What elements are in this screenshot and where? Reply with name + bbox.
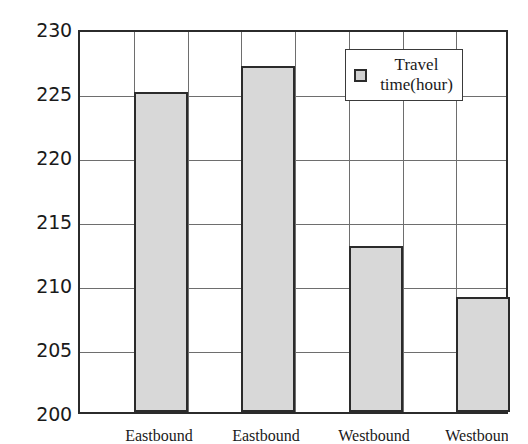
plot-area: Travel time(hour) xyxy=(78,30,508,414)
y-axis-tick-label: 210 xyxy=(10,275,72,297)
y-axis-tick-label: 215 xyxy=(10,211,72,233)
legend-label-line1: Travel xyxy=(377,55,456,75)
y-axis-tick-label: 205 xyxy=(10,339,72,361)
x-axis-tick-label: Eastbound xyxy=(125,427,193,444)
bar xyxy=(241,66,295,412)
y-axis-tick-label: 220 xyxy=(10,147,72,169)
bar xyxy=(349,246,403,412)
y-axis-tick-label: 225 xyxy=(10,83,72,105)
bar xyxy=(456,297,510,412)
x-axis-tick-label: Eastbound xyxy=(232,427,300,444)
x-axis-tick-label: Westbound xyxy=(338,427,410,444)
legend-swatch-icon xyxy=(354,69,367,82)
bar-chart-figure: 200205210215220225230 Travel time(hour) … xyxy=(0,0,528,444)
bar xyxy=(134,92,188,412)
y-axis-tick-label: 200 xyxy=(10,403,72,425)
x-axis-tick-label: Westbound xyxy=(445,427,508,444)
x-axis: EastboundEastboundWestboundWestbound xyxy=(78,427,508,444)
y-axis: 200205210215220225230 xyxy=(6,0,72,444)
chart-legend: Travel time(hour) xyxy=(345,49,463,101)
legend-label-line2: time(hour) xyxy=(377,75,456,95)
y-axis-tick-label: 230 xyxy=(10,19,72,41)
legend-label: Travel time(hour) xyxy=(377,55,456,95)
